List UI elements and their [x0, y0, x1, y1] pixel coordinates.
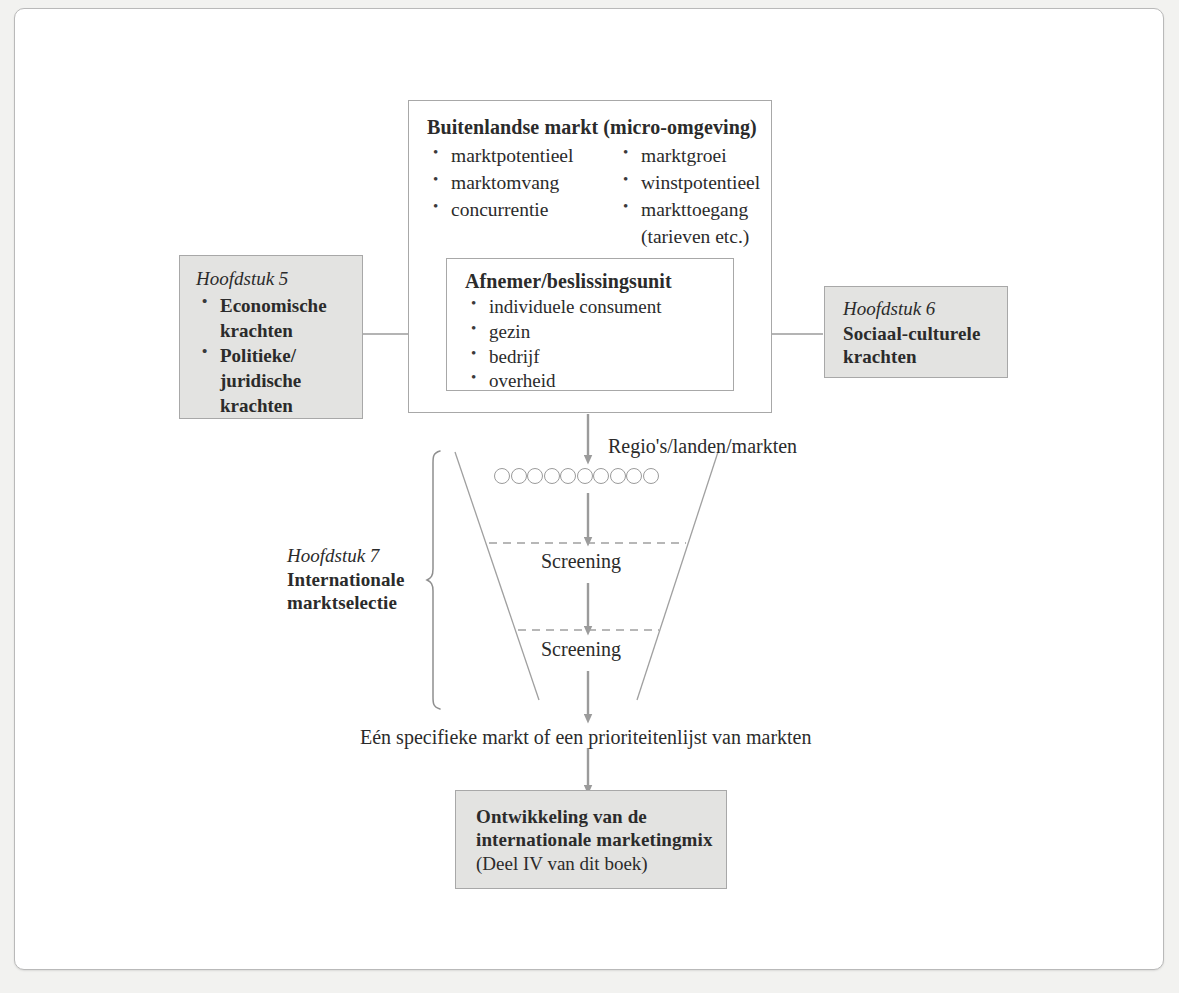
list-item: marktpotentieel: [427, 143, 617, 170]
buyer-decision-unit-box: Afnemer/beslissingsunit individuele cons…: [446, 258, 734, 391]
market-circle-icon: [610, 468, 626, 484]
funnel-right-edge: [637, 452, 718, 700]
chapter5-list: Economische krachten Politieke/ juridisc…: [196, 293, 362, 418]
market-circle-icon: [643, 468, 659, 484]
result-subtitle: (Deel IV van dit boek): [476, 852, 726, 877]
list-item: winstpotentieel: [617, 170, 767, 197]
market-circle-icon: [560, 468, 576, 484]
screening-label-1: Screening: [541, 549, 621, 574]
diagram-canvas: Buitenlandse markt (micro-omgeving) mark…: [0, 0, 1179, 993]
funnel-left-edge: [455, 452, 539, 700]
screening-label-2: Screening: [541, 637, 621, 662]
chapter7-label: Hoofdstuk 7: [287, 544, 427, 568]
chapter6-title: Sociaal-culturele krachten: [843, 322, 1007, 368]
market-circle-icon: [544, 468, 560, 484]
chapter6-box: Hoofdstuk 6 Sociaal-culturele krachten: [824, 286, 1008, 378]
list-item: marktomvang: [427, 170, 617, 197]
market-circle-icon: [527, 468, 543, 484]
market-right-continuation: (tarieven etc.): [617, 224, 767, 251]
chapter6-label: Hoofdstuk 6: [843, 297, 1007, 321]
buyer-box-title: Afnemer/beslissingsunit: [465, 269, 733, 293]
funnel-output-label: Eén specifieke markt of een prioriteiten…: [360, 725, 812, 750]
chapter7-title: Internationale marktselectie: [287, 568, 427, 615]
market-circle-icon: [577, 468, 593, 484]
list-item: concurrentie: [427, 197, 617, 224]
market-list-right: marktgroei winstpotentieel markttoegang: [617, 143, 767, 223]
list-item: markttoegang: [617, 197, 767, 224]
regions-input-label: Regio's/landen/markten: [608, 434, 797, 459]
list-item: bedrijf: [465, 345, 733, 370]
list-item: Politieke/ juridische krachten: [196, 343, 362, 418]
market-attribute-columns: marktpotentieel marktomvang concurrentie…: [427, 141, 771, 250]
chapter5-label: Hoofdstuk 5: [196, 267, 362, 291]
chapter5-box: Hoofdstuk 5 Economische krachten Politie…: [179, 255, 363, 419]
market-circle-icon: [511, 468, 527, 484]
marketingmix-result-box: Ontwikkeling van de internationale marke…: [455, 790, 727, 889]
market-circle-icon: [494, 468, 510, 484]
market-circle-icon: [626, 468, 642, 484]
market-list-left: marktpotentieel marktomvang concurrentie: [427, 143, 617, 223]
market-column-left: marktpotentieel marktomvang concurrentie: [427, 141, 617, 250]
list-item: gezin: [465, 320, 733, 345]
chapter7-label-group: Hoofdstuk 7 Internationale marktselectie: [287, 544, 427, 615]
market-column-right: marktgroei winstpotentieel markttoegang …: [617, 141, 767, 250]
buyer-list: individuele consument gezin bedrijf over…: [465, 295, 733, 394]
chapter7-brace: [427, 451, 440, 709]
market-circle-icon: [593, 468, 609, 484]
list-item: individuele consument: [465, 295, 733, 320]
list-item: overheid: [465, 369, 733, 394]
market-circles-row: [494, 468, 659, 484]
result-title-line2: internationale marketingmix: [476, 828, 726, 851]
list-item: marktgroei: [617, 143, 767, 170]
result-title-line1: Ontwikkeling van de: [476, 805, 726, 828]
market-box-title: Buitenlandse markt (micro-omgeving): [427, 115, 771, 139]
list-item: Economische krachten: [196, 293, 362, 343]
